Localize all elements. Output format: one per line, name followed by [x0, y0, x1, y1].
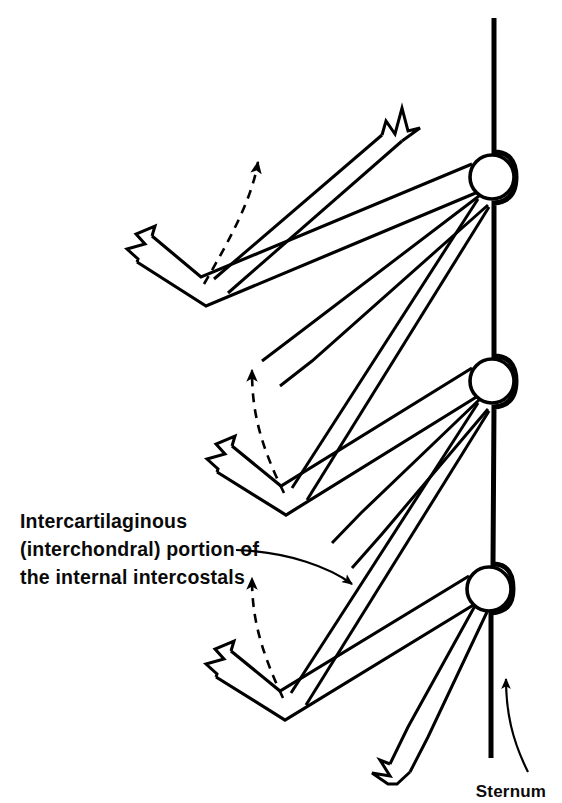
rib-band-1-break-mark — [127, 226, 155, 262]
sternum-leader-line — [506, 679, 528, 772]
intercartilaginous-label-line-2: (interchondral) portion of — [20, 538, 259, 560]
intercartilaginous-label-line-1: Intercartilaginous — [20, 510, 187, 532]
figure-canvas: Intercartilaginous (interchondral) porti… — [0, 0, 562, 803]
rib-band-3-break-mark — [206, 641, 234, 677]
rib-band-1-lower-edge — [137, 192, 478, 306]
rib-band-2-break-mark — [207, 436, 235, 472]
intercostal-muscle-band-0-edge-b — [228, 141, 402, 293]
intercostal-muscle-band-1-edge-a — [262, 196, 479, 361]
costochondral-joint-2 — [470, 359, 514, 403]
costochondral-joint-3 — [467, 567, 511, 611]
costochondral-joint-1 — [470, 155, 514, 199]
sternum-annotation: Sternum — [476, 679, 546, 801]
rib-unit-1 — [127, 108, 514, 386]
anatomy-figure: Intercartilaginous (interchondral) porti… — [0, 0, 562, 803]
intercostal-muscle-band-0-edge-a — [214, 135, 382, 279]
intercostal-muscle-band-0-break-mark — [382, 108, 420, 141]
intercartilaginous-annotation: Intercartilaginous (interchondral) porti… — [20, 510, 352, 588]
intercartilaginous-label-line-3: the internal intercostals — [20, 566, 245, 588]
sternum-label-text: Sternum — [476, 782, 546, 801]
